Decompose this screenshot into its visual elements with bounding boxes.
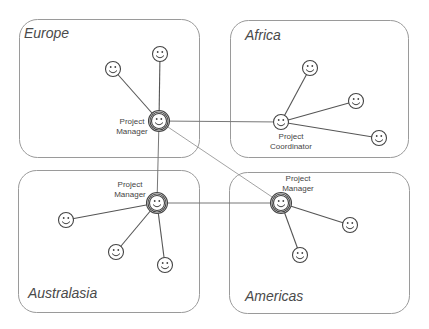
smiley-face-icon [59,213,74,228]
smiley-face-icon [343,218,358,233]
region-title: Africa [244,27,281,43]
region-title: Europe [24,25,69,41]
smiley-face-icon [274,115,289,130]
smiley-face-icon [349,94,364,109]
smiley-face-icon [106,62,121,77]
smiley-face-icon [293,248,308,263]
region-australasia: Australasia [19,171,200,313]
smiley-face-icon [109,245,124,260]
smiley-face-icon [158,258,173,273]
double-ring-smiley-icon [271,193,292,214]
smiley-face-icon [153,47,168,62]
double-ring-smiley-icon [149,111,170,132]
node-label-am_pm: ProjectManager [282,174,314,193]
node-label-eu_pm: ProjectManager [116,117,148,136]
double-ring-smiley-icon [147,193,168,214]
region-americas: Americas [230,173,410,314]
smiley-face-icon [303,61,318,76]
smiley-face-icon [372,131,387,146]
network-diagram: EuropeAfricaAustralasiaAmericas ProjectM… [0,0,429,329]
region-title: Australasia [27,285,97,301]
node-label-au_pm: ProjectManager [114,180,146,199]
region-europe: Europe [20,20,200,158]
region-title: Americas [244,288,303,304]
regions-layer: EuropeAfricaAustralasiaAmericas [19,20,410,314]
